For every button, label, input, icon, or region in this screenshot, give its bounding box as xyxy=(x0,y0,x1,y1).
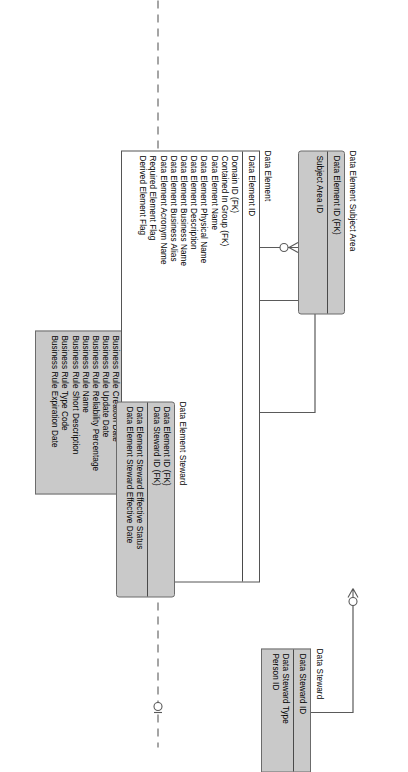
entity-title-data-element-steward: Data Element Steward xyxy=(178,401,187,485)
entity-title-data-element: Data Element xyxy=(263,150,272,201)
key-area-data-steward: Data Steward ID xyxy=(293,649,310,771)
field-attr: Domain ID (FK) xyxy=(229,155,239,577)
field-attr: Business Rule Reliability Percentage xyxy=(90,335,100,489)
entity-title-data-element-subject-area: Data Element Subject Area xyxy=(348,150,357,251)
entity-title-data-steward: Data Steward xyxy=(315,648,324,699)
field-key: Data Steward ID xyxy=(297,653,307,767)
field-attr: Data Steward Type xyxy=(280,653,290,767)
entity-data-element-steward[interactable]: Data Element ID (FK) Data Steward ID (FK… xyxy=(116,401,175,597)
field-attr: Person ID xyxy=(270,653,280,767)
field-attr: Data Element Description xyxy=(188,155,198,577)
relationship-data-element-to-subject-area xyxy=(260,242,298,252)
field-attr: Data Element Name xyxy=(208,155,218,577)
field-attr: Business Rule Short Description xyxy=(69,335,79,489)
key-area-data-element-subject-area: Data Element ID (FK) xyxy=(327,151,344,313)
key-area-data-element-steward: Data Element ID (FK) Data Steward ID (FK… xyxy=(147,402,174,596)
field-attr: Data Element Physical Name xyxy=(198,155,208,577)
field-attr: Business Rule Update Date xyxy=(100,335,110,489)
field-key: Data Element ID xyxy=(246,155,256,577)
field-key: Data Steward ID (FK) xyxy=(151,406,161,592)
field-attr: Subject Area ID xyxy=(314,155,324,309)
entity-data-element-subject-area[interactable]: Data Element ID (FK) Subject Area ID xyxy=(298,150,345,314)
field-attr: Business Rule Expiration Date xyxy=(49,335,59,489)
field-key: Data Element ID (FK) xyxy=(161,406,171,592)
field-key: Data Element ID (FK) xyxy=(331,155,341,309)
attr-area-data-steward: Data Steward Type Person ID xyxy=(267,649,293,771)
entity-data-steward[interactable]: Data Steward ID Data Steward Type Person… xyxy=(261,648,311,772)
attr-area-data-element-subject-area: Subject Area ID xyxy=(311,151,327,313)
field-attr: Data Element Steward Effective Status xyxy=(134,406,144,592)
attr-area-data-element-steward: Data Element Steward Effective Status Da… xyxy=(121,402,147,596)
field-attr: Data Element Steward Effective Date xyxy=(124,406,134,592)
field-attr: Business Rule Name xyxy=(80,335,90,489)
field-attr: Contained In Group (FK) xyxy=(219,155,229,577)
key-area-data-element: Data Element ID xyxy=(242,151,259,581)
field-attr: Data Element Business Name xyxy=(178,155,188,577)
field-attr: Business Rule Type Code xyxy=(59,335,69,489)
